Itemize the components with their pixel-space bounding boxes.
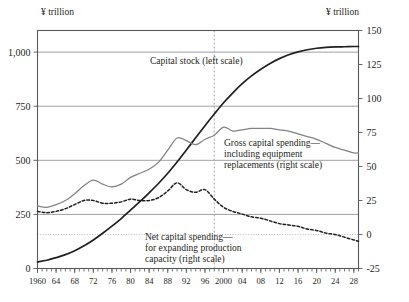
annotation-capital-stock: Capital stock (left scale) (150, 56, 243, 67)
left-axis-unit-label: ¥ trillion (41, 7, 74, 17)
x-tick-label-2004: 04 (238, 276, 247, 286)
x-tick-label-2020: 20 (312, 276, 321, 286)
right-tick-label-25: 25 (367, 195, 377, 206)
x-tick-label-1976: 76 (108, 276, 117, 286)
capital-stock-and-spending-chart: 02505007501,000-250255075100125150196064… (0, 0, 409, 302)
x-tick-label-1996: 96 (201, 276, 210, 286)
left-tick-label-500: 500 (16, 155, 31, 166)
x-tick-label-1984: 84 (145, 276, 154, 286)
annotation-net-line2: for expanding production (145, 243, 242, 253)
x-tick-label-2000: 2000 (215, 276, 232, 286)
right-tick-label-0: 0 (367, 229, 372, 240)
x-tick-label-1992: 92 (182, 276, 191, 286)
annotation-gross-line2: including equipment (224, 149, 303, 159)
right-tick-label-50: 50 (367, 161, 377, 172)
x-tick-label-1980: 80 (126, 276, 135, 286)
left-tick-label-750: 750 (16, 101, 31, 112)
x-tick-label-1968: 68 (70, 276, 79, 286)
right-tick-label-150: 150 (367, 25, 382, 36)
annotation-net-line3: capacity (right scale) (145, 254, 225, 265)
annotation-gross-line3: replacements (right scale) (224, 160, 322, 171)
left-tick-label-250: 250 (16, 209, 31, 220)
chart-figure: 02505007501,000-250255075100125150196064… (0, 0, 409, 302)
x-tick-label-2008: 08 (257, 276, 266, 286)
right-tick-label-125: 125 (367, 59, 382, 70)
left-tick-label-1000: 1,000 (8, 47, 31, 58)
x-tick-label-1988: 88 (164, 276, 173, 286)
x-tick-label-2016: 16 (294, 276, 303, 286)
x-tick-label-1960: 1960 (29, 276, 46, 286)
left-tick-label-0: 0 (26, 263, 31, 274)
x-tick-label-2028: 28 (350, 276, 359, 286)
annotation-net-line1: Net capital spending— (145, 232, 233, 242)
right-tick-label--25: -25 (367, 263, 380, 274)
right-tick-label-75: 75 (367, 127, 377, 138)
right-axis-unit-label: ¥ trillion (326, 7, 359, 17)
x-tick-label-1964: 64 (52, 276, 61, 286)
x-tick-label-2024: 24 (331, 276, 340, 286)
x-tick-label-1972: 72 (89, 276, 98, 286)
annotation-gross-line1: Gross capital spending— (224, 138, 321, 148)
right-tick-label-100: 100 (367, 93, 382, 104)
x-tick-label-2012: 12 (275, 276, 284, 286)
